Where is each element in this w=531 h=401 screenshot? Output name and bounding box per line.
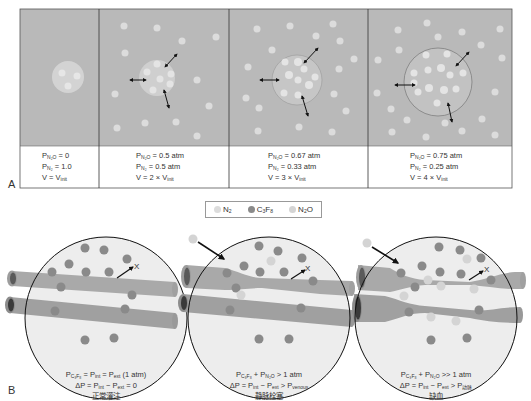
legend-item-n2o: N2O: [289, 205, 313, 214]
caption-venous-occlusion: PC₃F₈ + PN₂O > 1 atm ΔP = Pint − Pext > …: [230, 370, 309, 401]
x-marker: X: [305, 264, 311, 273]
bubble-initial: [52, 61, 84, 93]
n2-dot-icon: [214, 206, 221, 213]
legend-item-c3f8: C3F8: [248, 205, 273, 214]
c3f8-dot-icon: [248, 206, 255, 213]
caption-cell-1: PN₂O = 0 PN₂ = 1.0 V = Vinit: [42, 151, 72, 184]
caption-cell-4: PN₂O = 0.75 atm PN₂ = 0.25 atm V = 4 × V…: [410, 151, 462, 184]
caption-ischemia: PC₃F₈ + PN₂O >> 1 atm ΔP = Pint − Pext >…: [400, 370, 473, 401]
x-marker: X: [484, 265, 490, 274]
panel-b-label: B: [8, 384, 15, 396]
bubble-2x: [139, 60, 175, 96]
bubble-3x: [272, 55, 322, 105]
x-marker: X: [134, 262, 140, 271]
caption-normal-perfusion: PC₃F₈ = Pint = Pext (1 atm) ΔP = Pint − …: [66, 370, 147, 401]
caption-cell-2: PN₂O = 0.5 atm PN₂ = 0.5 atm V = 2 × Vin…: [136, 151, 184, 184]
bubble-4x: [404, 48, 472, 116]
n2o-influx-arrow: [198, 242, 224, 259]
panel-a-label: A: [8, 178, 15, 190]
legend-item-n2: N2: [214, 205, 232, 214]
caption-cell-3: PN₂O = 0.67 atm PN₂ = 0.33 atm V = 3 × V…: [268, 151, 320, 184]
legend: N2 C3F8 N2O: [205, 201, 322, 218]
n2o-dot-icon: [289, 206, 296, 213]
